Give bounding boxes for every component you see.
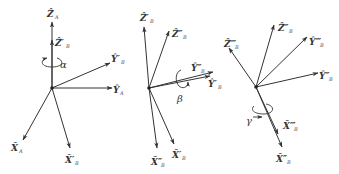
label-y-b-double-prime: Ŷ″ (191, 62, 201, 73)
label-z-b-double-prime: Ẑ″ (171, 28, 183, 39)
label-z-a-sub: A (54, 14, 59, 20)
label-y-b-double-prime-sub: B (200, 68, 205, 74)
rotation-angle-gamma: γ (246, 115, 252, 126)
label-x-b-prime: X̂′ (64, 154, 75, 165)
frame-1: α Ẑ A Ẑ′ B Ŷ′ B Ŷ A X̂ A X̂′ B (10, 8, 125, 166)
label-y-b-double-prime: Ŷ″ (319, 70, 329, 81)
label-x-b-double-prime: X̂″ (275, 153, 287, 164)
label-z-b-prime: Ẑ′ (54, 37, 65, 48)
label-z-b-double-prime-sub: B (288, 28, 293, 34)
rotation-angle-beta: β (176, 93, 183, 104)
label-x-b-double-prime-sub: B (286, 159, 291, 165)
label-y-b-double-prime-sub: B (328, 76, 333, 82)
axis-y-b-double-prime-arrow (256, 73, 318, 87)
rotation-arrow-icon (252, 104, 272, 114)
origin-point (50, 86, 54, 90)
label-x-a: X̂ (10, 142, 19, 153)
label-x-b-prime: X̂′ (171, 149, 182, 160)
euler-rotation-diagram: α Ẑ A Ẑ′ B Ŷ′ B Ŷ A X̂ A X̂′ B β Ẑ′ B Ẑ″… (0, 0, 339, 174)
frame-3: γ Ẑ″ B Ẑ‴ B Ŷ‴ B Ŷ″ B X̂‴ B X̂″ B (223, 22, 333, 165)
label-z-b-prime: Ẑ′ (139, 12, 150, 23)
label-x-b-prime-sub: B (181, 155, 186, 161)
label-z-b-triple-prime-sub: B (234, 44, 239, 50)
label-y-b-prime-sub: B (217, 84, 222, 90)
label-x-b-double-prime-sub: B (160, 162, 165, 168)
label-z-b-double-prime: Ẑ″ (277, 22, 289, 33)
label-x-b-triple-prime-sub: B (293, 126, 298, 132)
axis-y-b-double-prime-arrow (149, 72, 213, 88)
label-z-a: Ẑ (46, 8, 54, 19)
axis-z-b-prime-arrow (144, 27, 149, 88)
origin-point (254, 85, 258, 89)
label-y-b-prime: Ŷ′ (111, 53, 120, 64)
label-x-a-sub: A (18, 148, 23, 154)
origin-point (147, 86, 151, 90)
axis-x-a-arrow (23, 88, 52, 140)
label-z-b-double-prime-sub: B (182, 34, 187, 40)
label-z-b-prime-sub: B (149, 18, 154, 24)
label-y-b-prime-sub: B (120, 59, 125, 65)
axis-z-b-double-prime-arrow (149, 31, 169, 88)
label-y-b-prime: Ŷ′ (208, 78, 217, 89)
rotation-angle-alpha: α (60, 59, 67, 70)
axis-x-b-prime-arrow (52, 88, 70, 148)
label-x-b-prime-sub: B (74, 160, 79, 166)
axis-z-b-triple-prime-arrow (229, 48, 256, 87)
label-y-a-sub: A (119, 90, 124, 96)
label-z-b-prime-sub: B (65, 43, 70, 49)
frame-2: β Ẑ′ B Ẑ″ B Ŷ″ B Ŷ′ B X̂″ B X̂′ B (139, 12, 222, 168)
label-y-b-triple-prime-sub: B (319, 42, 324, 48)
